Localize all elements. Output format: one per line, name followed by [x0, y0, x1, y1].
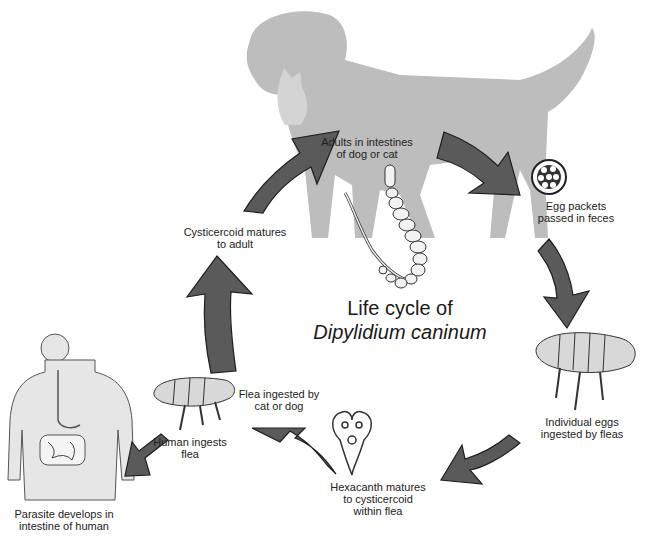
arrow-to-hexacanth	[441, 435, 520, 484]
arrow-to-cysticercoid	[187, 256, 252, 373]
label-line: within flea	[328, 505, 428, 517]
arrow-to-eggs-ingested	[538, 239, 589, 328]
label-line: Adults in intestines	[316, 136, 418, 148]
label-flea-ingested: Flea ingested by cat or dog	[234, 388, 324, 412]
label-line: to cysticercoid	[328, 493, 428, 505]
label-line: Parasite develops in	[4, 508, 124, 520]
label-eggs-ingested: Individual eggs ingested by fleas	[532, 416, 632, 440]
label-parasite-human: Parasite develops in intestine of human	[4, 508, 124, 532]
label-line: intestine of human	[4, 520, 124, 532]
label-line: Hexacanth matures	[328, 481, 428, 493]
label-line: to adult	[176, 238, 294, 250]
label-line: cat or dog	[234, 400, 324, 412]
diagram-artwork	[0, 0, 647, 548]
label-line: of dog or cat	[316, 148, 418, 160]
diagram-title: Life cycle of Dipylidium caninum	[300, 296, 500, 344]
label-egg-packets: Egg packets passed in feces	[526, 200, 626, 224]
label-human-ingests: Human ingests flea	[150, 436, 230, 460]
label-line: passed in feces	[526, 212, 626, 224]
label-line: Flea ingested by	[234, 388, 324, 400]
flea-icon-left	[154, 378, 235, 430]
label-line: Individual eggs	[532, 416, 632, 428]
egg-packet-icon	[532, 160, 566, 194]
label-line: Egg packets	[526, 200, 626, 212]
label-line: Human ingests	[150, 436, 230, 448]
label-line: Cysticercoid matures	[176, 226, 294, 238]
arrow-to-flea-ingested	[252, 428, 336, 474]
label-hexacanth: Hexacanth matures to cysticercoid within…	[328, 481, 428, 517]
human-torso-icon	[8, 334, 134, 500]
label-line: ingested by fleas	[532, 428, 632, 440]
label-adults-in-intestines: Adults in intestines of dog or cat	[316, 136, 418, 160]
title-species-name: Dipylidium caninum	[300, 320, 500, 344]
label-line: flea	[150, 448, 230, 460]
label-cysticercoid-matures: Cysticercoid matures to adult	[176, 226, 294, 250]
title-line1: Life cycle of	[347, 297, 453, 319]
life-cycle-diagram: Adults in intestines of dog or cat Egg p…	[0, 0, 647, 548]
cysticercoid-icon	[333, 412, 372, 475]
flea-icon-right	[536, 333, 635, 410]
